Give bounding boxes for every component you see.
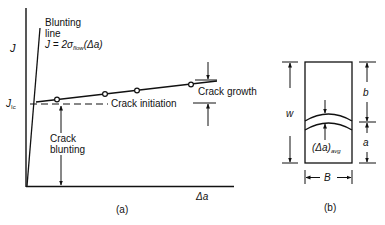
y-axis-label: J [10,43,16,54]
blunting-line [27,28,40,186]
delta-a-avg-label: (Δa)avg [312,142,341,157]
jic-label-sub: Ic [11,104,16,110]
crack-blunting-label-2: blunting [49,144,86,155]
data-point [55,97,60,102]
blunting-line-title-1: Blunting [45,17,81,28]
w-label: w [286,108,293,119]
panel-b-caption: (b) [324,202,336,213]
delta-a-pre: (Δa) [312,142,331,153]
panel-b-specimen [282,62,376,184]
panel-a-caption: (a) [116,204,128,215]
blunting-eq-sub: flow [73,45,84,51]
crack-front-lower [305,123,352,130]
delta-a-sub: avg [331,148,341,154]
data-point [135,88,140,93]
blunting-eq-pre: J = 2σ [45,39,73,50]
crack-initiation-label: Crack initiation [111,98,177,109]
jic-label: JIc [6,98,16,113]
x-axis-label: Δa [196,191,208,202]
crack-front-upper [305,114,352,121]
data-point [189,82,194,87]
crack-blunting-label-1: Crack [49,133,77,144]
a-label: a [363,137,369,148]
blunting-eq-post: (Δa) [84,39,103,50]
crack-growth-label: Crack growth [198,86,257,97]
B-label: B [324,172,331,183]
data-point [103,92,108,97]
blunting-line-title-2: line [45,28,61,39]
b-label: b [363,87,369,98]
blunting-line-equation: J = 2σflow(Δa) [45,39,103,54]
